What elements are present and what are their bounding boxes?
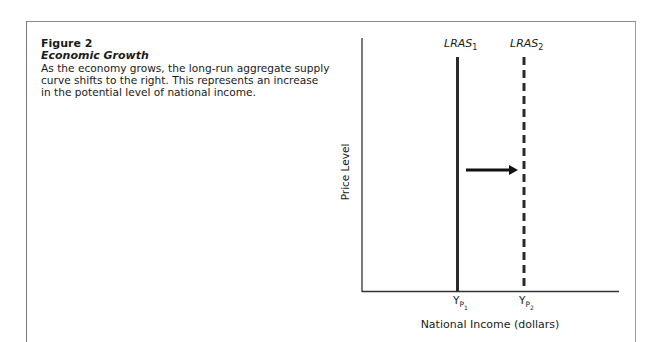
- yp2-label: YP2: [518, 294, 534, 311]
- yp1-label: YP1: [452, 294, 468, 311]
- lras2-label: LRAS2: [510, 37, 543, 52]
- shift-arrow-icon: [466, 165, 518, 175]
- x-axis-label: National Income (dollars): [421, 318, 560, 331]
- y-axis-label: Price Level: [339, 144, 351, 201]
- lras1-label: LRAS1: [444, 37, 477, 52]
